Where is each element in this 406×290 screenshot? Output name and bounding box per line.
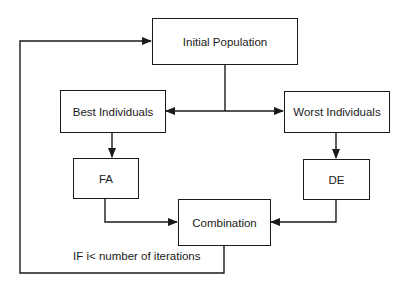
node-de: DE <box>303 159 370 200</box>
node-fa: FA <box>73 158 139 199</box>
loop-condition-label: IF i< number of iterations <box>73 250 201 262</box>
node-label: Worst Individuals <box>293 106 380 118</box>
node-worst-individuals: Worst Individuals <box>284 91 390 133</box>
edge-fa-combination <box>105 198 177 222</box>
node-label: DE <box>329 174 345 186</box>
node-best-individuals: Best Individuals <box>60 90 166 133</box>
node-label: Combination <box>192 217 257 229</box>
node-label: Best Individuals <box>73 106 154 118</box>
node-combination: Combination <box>178 199 271 246</box>
edge-de-combination <box>271 199 336 222</box>
node-label: Initial Population <box>183 36 267 48</box>
node-label: FA <box>99 173 113 185</box>
node-initial-population: Initial Population <box>152 18 298 65</box>
